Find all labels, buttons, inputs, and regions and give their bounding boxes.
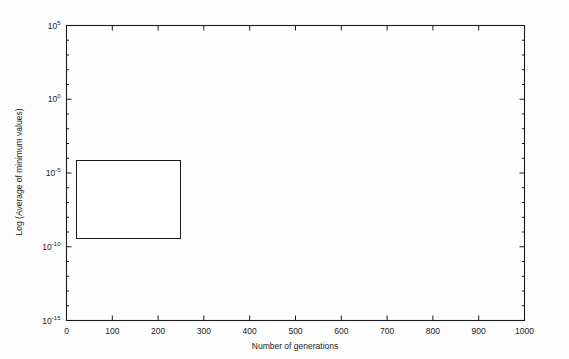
x-tick-label: 800 [426,326,440,336]
x-tick-label: 300 [197,326,211,336]
legend-box [77,161,181,239]
x-axis-title: Number of generations [252,341,338,351]
y-axis-tick-labels: 10510010-510-1010-15 [42,20,61,326]
y-tick-label: 10-5 [46,167,61,178]
x-tick-label: 1000 [515,326,534,336]
x-tick-label: 400 [243,326,257,336]
y-tick-label: 105 [48,20,61,31]
x-tick-label: 700 [380,326,394,336]
x-tick-label: 0 [64,326,69,336]
x-axis-tick-labels: 01002003004005006007008009001000 [64,326,534,336]
x-tick-label: 200 [151,326,165,336]
y-tick-label: 10-15 [42,315,61,326]
x-tick-label: 100 [105,326,119,336]
line-chart: 01002003004005006007008009001000 1051001… [0,0,569,359]
y-tick-label: 10-10 [42,241,61,252]
figure-container: 01002003004005006007008009001000 1051001… [0,0,569,359]
x-tick-label: 600 [334,326,348,336]
y-tick-label: 100 [48,93,61,104]
y-axis-title: Log (Average of minimum values) [14,108,24,235]
x-tick-label: 900 [472,326,486,336]
chart-legend [77,161,181,239]
x-tick-label: 500 [288,326,302,336]
